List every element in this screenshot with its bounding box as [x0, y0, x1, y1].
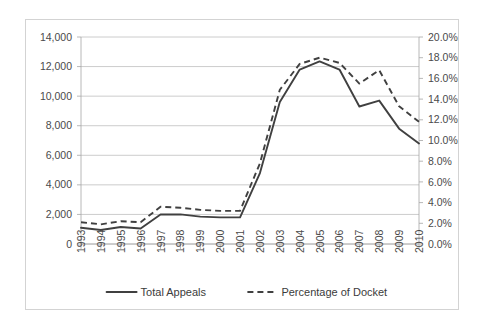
- x-axis-tick-label: 1997: [155, 229, 167, 253]
- x-axis-tick-label: 2006: [333, 229, 345, 253]
- x-axis-tick-label: 2004: [294, 229, 306, 253]
- data-series: [81, 58, 419, 230]
- chart-figure: 02,0004,0006,0008,00010,00012,00014,000 …: [25, 19, 459, 310]
- y-axis-right-tick-label: 2.0%: [428, 217, 452, 229]
- x-axis-tick-label: 2005: [314, 229, 326, 253]
- x-axis-tick-label: 2000: [214, 229, 226, 253]
- y-axis-left-tick-label: 6,000: [46, 149, 72, 161]
- axis-tickmarks: [77, 37, 423, 249]
- x-axis-tick-label: 2010: [413, 229, 425, 253]
- y-axis-right-labels: 0.0%2.0%4.0%6.0%8.0%10.0%12.0%14.0%16.0%…: [428, 31, 458, 250]
- y-axis-left-tick-label: 0: [66, 238, 72, 250]
- line-chart-plot: 02,0004,0006,0008,00010,00012,00014,000 …: [26, 20, 460, 311]
- x-axis-tick-label: 1996: [135, 229, 147, 253]
- y-axis-left-tick-label: 12,000: [40, 60, 72, 72]
- x-axis-tick-label: 2007: [353, 229, 365, 253]
- y-axis-left-tick-label: 10,000: [40, 90, 72, 102]
- y-axis-left-labels: 02,0004,0006,0008,00010,00012,00014,000: [40, 31, 72, 250]
- x-axis-tick-label: 1999: [194, 229, 206, 253]
- y-axis-left-tick-label: 2,000: [46, 208, 72, 220]
- y-axis-right-tick-label: 12.0%: [428, 113, 458, 125]
- y-axis-right-tick-label: 0.0%: [428, 238, 452, 250]
- y-axis-right-tick-label: 10.0%: [428, 134, 458, 146]
- x-axis-tick-label: 1993: [75, 229, 87, 253]
- x-axis-tick-label: 2002: [254, 229, 266, 253]
- x-axis-tick-label: 2009: [393, 229, 405, 253]
- y-axis-left-tick-label: 8,000: [46, 119, 72, 131]
- x-axis-labels: 1993199419951996199719981999200020012002…: [75, 229, 425, 253]
- legend-label-2: Percentage of Docket: [281, 286, 387, 298]
- series-line-2: [81, 58, 419, 225]
- series-line-1: [81, 61, 419, 230]
- y-axis-left-tick-label: 14,000: [40, 31, 72, 43]
- y-axis-right-tick-label: 4.0%: [428, 196, 452, 208]
- y-axis-left-tick-label: 4,000: [46, 178, 72, 190]
- x-axis-tick-label: 1995: [115, 229, 127, 253]
- x-axis-tick-label: 2001: [234, 229, 246, 253]
- y-axis-right-tick-label: 20.0%: [428, 31, 458, 43]
- y-axis-right-tick-label: 18.0%: [428, 51, 458, 63]
- gridlines: [81, 37, 419, 244]
- x-axis-tick-label: 1994: [95, 229, 107, 253]
- y-axis-right-tick-label: 14.0%: [428, 93, 458, 105]
- x-axis-tick-label: 2003: [274, 229, 286, 253]
- x-axis-tick-label: 2008: [373, 229, 385, 253]
- y-axis-right-tick-label: 16.0%: [428, 72, 458, 84]
- legend-label-1: Total Appeals: [141, 286, 207, 298]
- chart-legend: Total AppealsPercentage of Docket: [107, 286, 388, 298]
- y-axis-right-tick-label: 6.0%: [428, 176, 452, 188]
- y-axis-right-tick-label: 8.0%: [428, 155, 452, 167]
- x-axis-tick-label: 1998: [174, 229, 186, 253]
